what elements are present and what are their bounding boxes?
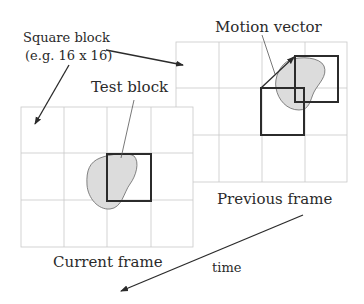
motion-vector-label: Motion vector [215,18,322,36]
previous-frame [176,42,347,182]
square-block-label: Square block [23,30,110,45]
current-frame-label: Current frame [53,253,163,271]
test-block-label: Test block [91,78,169,96]
square-block-arrow-previous [106,50,183,65]
square-block-size-label: (e.g. 16 x 16) [25,48,112,63]
motion-estimation-diagram: Square block (e.g. 16 x 16) Test block M… [0,0,364,304]
current-frame [21,107,193,247]
time-label: time [212,260,242,275]
previous-frame-label: Previous frame [217,190,332,208]
